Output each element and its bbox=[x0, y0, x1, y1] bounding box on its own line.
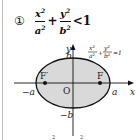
svg-text:a²: a² bbox=[89, 52, 96, 59]
footer-partial-text-2: 2 bbox=[80, 134, 83, 140]
b-label: b bbox=[66, 51, 72, 61]
neg-a-label: −a bbox=[22, 87, 35, 97]
svg-text:+: + bbox=[98, 49, 103, 56]
svg-text:x²: x² bbox=[89, 44, 95, 51]
focus-left-label: F′ bbox=[40, 71, 48, 81]
curve-equation-label: x² a² + y² b² =1 bbox=[88, 44, 122, 59]
ellipse-graph: y x O b −b a −a F′ F x² a² + y² b² =1 2 … bbox=[0, 0, 140, 140]
footer-partial-text: 2 bbox=[52, 134, 55, 140]
origin-label: O bbox=[63, 86, 70, 96]
focus-left-point bbox=[43, 81, 47, 85]
svg-text:=1: =1 bbox=[113, 49, 122, 56]
svg-text:y²: y² bbox=[103, 44, 110, 52]
y-axis-arrow-icon bbox=[71, 44, 76, 50]
x-axis-arrow-icon bbox=[128, 81, 134, 86]
neg-b-label: −b bbox=[60, 110, 74, 120]
focus-right-point bbox=[98, 81, 102, 85]
focus-right-label: F bbox=[97, 71, 103, 81]
x-axis-label: x bbox=[130, 87, 135, 97]
svg-text:b²: b² bbox=[104, 52, 111, 59]
a-label: a bbox=[112, 87, 117, 97]
